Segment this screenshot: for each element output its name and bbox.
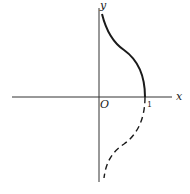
curve-diagram: y x O 1 — [0, 0, 190, 194]
origin-label: O — [100, 98, 109, 111]
x-axis-label: x — [176, 90, 183, 103]
solid-curve-upper-branch — [102, 14, 145, 97]
dashed-curve-lower-branch — [104, 97, 145, 178]
y-axis-label: y — [99, 0, 107, 12]
x-tick-label-one: 1 — [147, 100, 152, 109]
